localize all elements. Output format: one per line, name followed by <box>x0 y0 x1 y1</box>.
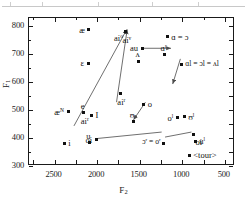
data-point-label: e <box>81 102 85 111</box>
x-axis-tick-label: 2000 <box>79 170 113 179</box>
y-axis-tick <box>229 166 233 167</box>
y-axis-tick <box>29 110 33 111</box>
data-point-marker <box>162 142 165 145</box>
y-axis-tick-label: 500 <box>0 105 24 114</box>
data-point-marker <box>119 92 122 95</box>
y-axis-minor-tick <box>229 152 233 153</box>
data-point-label: air <box>81 117 89 126</box>
x-axis-minor-tick <box>161 160 162 164</box>
y-axis-tick-label: 300 <box>0 161 24 170</box>
y-axis-tick <box>29 54 33 55</box>
x-axis-minor-tick <box>33 160 34 164</box>
x-axis-minor-tick <box>33 18 34 20</box>
data-point-marker <box>87 28 90 31</box>
data-point-marker <box>163 53 166 56</box>
data-point-label: ol <box>168 114 174 123</box>
y-axis-tick <box>29 26 33 27</box>
y-axis-minor-tick <box>229 40 233 41</box>
x-axis-minor-tick <box>161 18 162 20</box>
page-rule-ticks <box>2 2 245 7</box>
x-axis-tick <box>140 160 141 164</box>
y-axis-title: F1 <box>2 80 12 88</box>
data-point-label: aiv <box>122 36 131 45</box>
data-point-marker <box>124 30 127 33</box>
x-axis-tick <box>182 160 183 164</box>
y-axis-minor-tick <box>229 124 233 125</box>
x-axis-tick-label: 1500 <box>122 170 156 179</box>
x-axis-tick <box>55 160 56 164</box>
data-point-label: o <box>148 100 152 109</box>
y-axis-minor-tick <box>29 96 31 97</box>
x-axis-minor-tick <box>76 18 77 20</box>
x-axis-tick <box>225 18 226 22</box>
x-axis-tick-label: 1000 <box>164 170 198 179</box>
y-axis-minor-tick <box>29 40 31 41</box>
data-point-label: ɛ <box>80 59 84 68</box>
data-point-label: ʊ <box>130 111 135 120</box>
data-point-label: ʊl <box>188 113 194 122</box>
data-point-marker <box>82 111 85 114</box>
y-axis-tick <box>29 138 33 139</box>
data-point-marker <box>95 138 98 141</box>
data-point-marker <box>176 116 179 119</box>
y-axis-tick <box>229 138 233 139</box>
data-point-label: air <box>117 98 125 107</box>
x-axis-tick <box>97 160 98 164</box>
vowel-formant-scatter-figure: iuoi<tour>uloiɔr = orolʊleæNIʊoairairɛʌɑ… <box>0 0 247 204</box>
x-axis-minor-tick <box>118 160 119 164</box>
y-axis-tick <box>229 110 233 111</box>
x-axis-minor-tick <box>204 160 205 164</box>
y-axis-tick <box>229 26 233 27</box>
y-axis-minor-tick <box>29 68 31 69</box>
y-axis-tick <box>29 166 33 167</box>
y-axis-minor-tick <box>229 96 233 97</box>
x-axis-tick-label: 2500 <box>37 170 71 179</box>
y-axis-minor-tick <box>29 152 31 153</box>
data-point-marker <box>183 115 186 118</box>
data-point-label: i <box>68 139 70 148</box>
data-point-label: oi <box>85 136 92 145</box>
y-axis-tick-label: 800 <box>0 21 24 30</box>
x-axis-tick <box>225 160 226 164</box>
data-point-marker <box>63 142 66 145</box>
data-point-marker <box>137 60 140 63</box>
data-point-label: au <box>130 44 138 53</box>
data-point-label: ɑr <box>160 44 166 53</box>
y-axis-tick <box>29 82 33 83</box>
x-axis-tick <box>182 18 183 22</box>
x-axis-tick <box>140 18 141 22</box>
data-point-label: æN <box>54 108 64 117</box>
data-point-label: I <box>95 111 98 120</box>
data-point-marker <box>87 62 90 65</box>
data-point-label: oi <box>196 138 203 147</box>
data-point-marker <box>90 114 93 117</box>
x-axis-title: F2 <box>0 186 247 196</box>
y-axis-minor-tick <box>229 68 233 69</box>
y-axis-tick-label: 700 <box>0 49 24 58</box>
data-point-label: ɑl = ɔl = ʌl <box>185 60 219 69</box>
data-point-label: ɔr = or <box>142 138 161 147</box>
data-point-marker <box>132 120 135 123</box>
data-point-label: æ <box>79 26 85 35</box>
x-axis-minor-tick <box>118 18 119 20</box>
y-axis-minor-tick <box>29 124 31 125</box>
y-axis-tick <box>229 82 233 83</box>
x-axis-minor-tick <box>76 160 77 164</box>
x-axis-tick <box>55 18 56 22</box>
data-point-marker <box>141 47 144 50</box>
data-point-marker <box>67 110 70 113</box>
data-point-label: ɑ = ɔ <box>171 33 188 42</box>
data-point-marker <box>142 103 145 106</box>
x-axis-tick <box>97 18 98 22</box>
data-point-label: <tour> <box>193 151 216 160</box>
x-axis-minor-tick <box>204 18 205 20</box>
y-axis-tick <box>229 54 233 55</box>
data-point-marker <box>180 63 183 66</box>
x-axis-tick-label: 500 <box>207 170 241 179</box>
y-axis-tick-label: 400 <box>0 133 24 142</box>
data-point-marker <box>166 35 169 38</box>
data-point-marker <box>188 154 191 157</box>
data-point-marker <box>192 133 195 136</box>
